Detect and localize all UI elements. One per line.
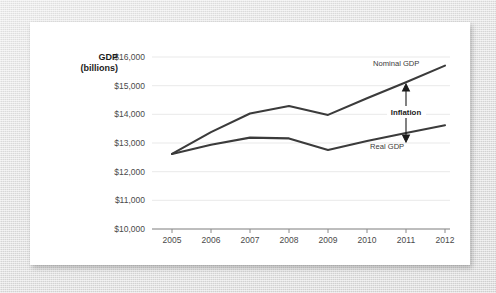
y-tick-label: $11,000 xyxy=(115,195,145,205)
inflation-arrow: Inflation xyxy=(387,84,426,142)
gdp-line-chart: $16,000 $15,000 $14,000 $13,000 $12,000 … xyxy=(30,22,470,265)
real-gdp-label: Real GDP xyxy=(370,142,404,151)
x-tick-label: 2012 xyxy=(436,235,455,245)
arrow-head-up-icon xyxy=(403,84,410,91)
y-tick-label: $15,000 xyxy=(114,81,145,91)
x-tick-label: 2011 xyxy=(397,235,416,245)
x-tick-label: 2006 xyxy=(202,235,221,245)
x-tick-label: 2007 xyxy=(241,235,260,245)
y-axis-subtitle: (billions) xyxy=(81,63,119,73)
chart-card: $16,000 $15,000 $14,000 $13,000 $12,000 … xyxy=(30,22,470,265)
nominal-gdp-label: Nominal GDP xyxy=(373,59,419,68)
inflation-label: Inflation xyxy=(391,108,422,117)
y-tick-label: $10,000 xyxy=(114,224,145,234)
y-tick-label: $13,000 xyxy=(114,138,145,148)
y-axis: $16,000 $15,000 $14,000 $13,000 $12,000 … xyxy=(114,52,145,234)
x-tick-label: 2009 xyxy=(319,235,338,245)
x-tick-label: 2008 xyxy=(280,235,299,245)
x-tick-label: 2010 xyxy=(358,235,377,245)
y-axis-title: GDP xyxy=(98,52,118,62)
gridlines xyxy=(152,57,450,200)
chart-svg: $16,000 $15,000 $14,000 $13,000 $12,000 … xyxy=(30,22,470,265)
y-tick-label: $12,000 xyxy=(114,167,145,177)
arrow-head-down-icon xyxy=(403,135,410,142)
y-tick-label: $14,000 xyxy=(114,109,145,119)
y-tick-label: $16,000 xyxy=(114,52,145,62)
x-tick-label: 2005 xyxy=(163,235,182,245)
x-axis: 2005 2006 2007 2008 2009 2010 2011 2012 xyxy=(152,229,455,245)
